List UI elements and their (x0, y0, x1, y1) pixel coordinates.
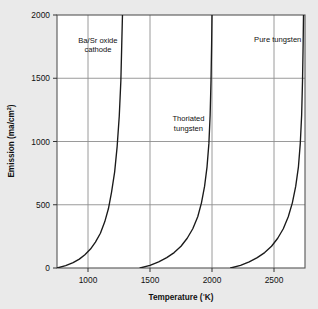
x-axis-title: Temperature (°K) (149, 293, 214, 302)
x-tick-label: 2000 (203, 275, 222, 285)
y-tick-label: 2000 (31, 10, 50, 20)
annotation-thoriated-tungsten: Thoriatedtungsten (172, 114, 204, 133)
emission-vs-temperature-chart: 05001000150020001000150020002500 Ba/Sr o… (0, 0, 318, 309)
x-tick-label: 1500 (141, 275, 160, 285)
y-axis-title: Emission (ma/cm2) (6, 104, 16, 177)
figure-container: 05001000150020001000150020002500 Ba/Sr o… (0, 0, 318, 309)
y-tick-label: 1000 (31, 137, 50, 147)
x-tick-label: 1000 (79, 275, 98, 285)
x-tick-label: 2500 (265, 275, 284, 285)
y-tick-label: 500 (36, 200, 50, 210)
y-tick-label: 1500 (31, 73, 50, 83)
annotation-pure-tungsten: Pure tungsten (254, 35, 301, 44)
y-tick-label: 0 (45, 263, 50, 273)
